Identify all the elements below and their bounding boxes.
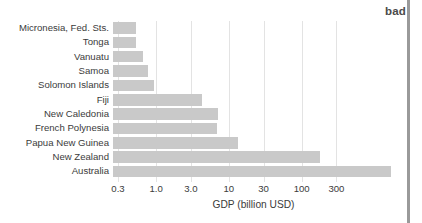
x-tick-label: 100 xyxy=(294,183,310,194)
category-label: Solomon Islands xyxy=(0,78,109,92)
bar-row xyxy=(113,64,394,78)
bar xyxy=(113,37,136,49)
bar xyxy=(113,65,148,77)
bar xyxy=(113,166,391,178)
x-tick-label: 300 xyxy=(328,183,344,194)
plot-area xyxy=(113,21,394,182)
category-label: Micronesia, Fed. Sts. xyxy=(0,21,109,35)
category-label: Papua New Guinea xyxy=(0,136,109,150)
x-tick-label: 0.3 xyxy=(111,183,124,194)
category-label: Fiji xyxy=(0,93,109,107)
x-tick-label: 10 xyxy=(224,183,235,194)
category-axis-labels: Micronesia, Fed. Sts.TongaVanuatuSamoaSo… xyxy=(0,21,109,182)
bar-row xyxy=(113,150,394,164)
x-axis-tick-labels: 0.31.03.01030100300 xyxy=(113,183,394,196)
category-label: Australia xyxy=(0,164,109,178)
category-label: French Polynesia xyxy=(0,121,109,135)
bar-row xyxy=(113,164,394,178)
chart-figure: bad Micronesia, Fed. Sts.TongaVanuatuSam… xyxy=(0,0,422,223)
category-label: Samoa xyxy=(0,64,109,78)
bar-row xyxy=(113,21,394,35)
bar-series xyxy=(113,21,394,182)
right-edge-marker-bar xyxy=(407,0,410,223)
bar xyxy=(113,94,202,106)
bar-row xyxy=(113,50,394,64)
bar-row xyxy=(113,107,394,121)
category-label: New Caledonia xyxy=(0,107,109,121)
category-label: New Zealand xyxy=(0,150,109,164)
bar-row xyxy=(113,136,394,150)
bar xyxy=(113,51,143,63)
x-tick-label: 1.0 xyxy=(149,183,162,194)
x-tick-label: 30 xyxy=(258,183,269,194)
category-label: Tonga xyxy=(0,35,109,49)
bar xyxy=(113,108,218,120)
x-axis-title: GDP (billion USD) xyxy=(113,199,394,210)
bad-annotation-label: bad xyxy=(385,5,406,17)
bar-row xyxy=(113,35,394,49)
x-tick-label: 3.0 xyxy=(184,183,197,194)
bar-row xyxy=(113,121,394,135)
bar xyxy=(113,151,320,163)
bar xyxy=(113,137,238,149)
category-label: Vanuatu xyxy=(0,50,109,64)
bar xyxy=(113,80,154,92)
bar-row xyxy=(113,78,394,92)
bar-row xyxy=(113,93,394,107)
bar xyxy=(113,123,217,135)
bar xyxy=(113,22,136,34)
